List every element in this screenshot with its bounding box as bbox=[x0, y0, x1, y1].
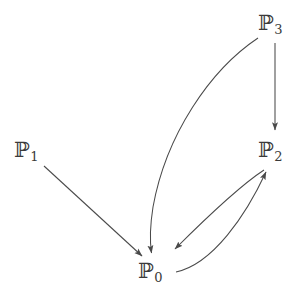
node-subscript-p2: 2 bbox=[274, 149, 282, 164]
node-label-p3: ℙ3 bbox=[258, 13, 283, 36]
node-subscript-p3: 3 bbox=[274, 22, 282, 37]
node-symbol-p2: ℙ bbox=[258, 138, 274, 162]
graph-diagram: ℙ0 ℙ1 ℙ2 ℙ3 bbox=[0, 0, 305, 298]
edge-p2-to-p0 bbox=[175, 170, 264, 249]
node-subscript-p0: 0 bbox=[154, 270, 162, 285]
edge-p0-to-p2 bbox=[176, 172, 266, 272]
node-label-p2: ℙ2 bbox=[258, 140, 283, 163]
node-symbol-p0: ℙ bbox=[138, 259, 154, 283]
node-symbol-p1: ℙ bbox=[14, 138, 30, 162]
node-subscript-p1: 1 bbox=[30, 149, 38, 164]
node-label-p0: ℙ0 bbox=[138, 261, 163, 284]
edge-p1-to-p0 bbox=[44, 166, 142, 256]
node-symbol-p3: ℙ bbox=[258, 11, 274, 35]
node-label-p1: ℙ1 bbox=[14, 140, 39, 163]
